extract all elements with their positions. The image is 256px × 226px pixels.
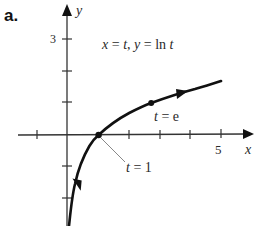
x-axis-arrow-icon	[243, 129, 254, 139]
point-t-e	[148, 100, 154, 106]
y-axis: 3 y	[50, 3, 83, 226]
y-axis-arrow-icon	[62, 4, 72, 16]
x-axis: 5 x	[18, 129, 254, 157]
x-axis-label: x	[244, 142, 252, 157]
y-tick-label-3: 3	[50, 32, 56, 46]
annotation-t-1: t = 1	[126, 160, 152, 175]
equation-label: x = t, y = ln t	[101, 37, 175, 52]
t1-leader-line	[101, 138, 125, 162]
point-t-1	[95, 132, 101, 138]
annotation-t-e: t = e	[154, 109, 179, 124]
x-tick-label-5: 5	[215, 142, 222, 157]
y-axis-label: y	[74, 3, 83, 18]
panel-label: a.	[4, 6, 18, 25]
parametric-plot: a. 5 x 3 y x = t, y = ln t	[0, 0, 256, 226]
curve-ln-t	[69, 81, 221, 226]
